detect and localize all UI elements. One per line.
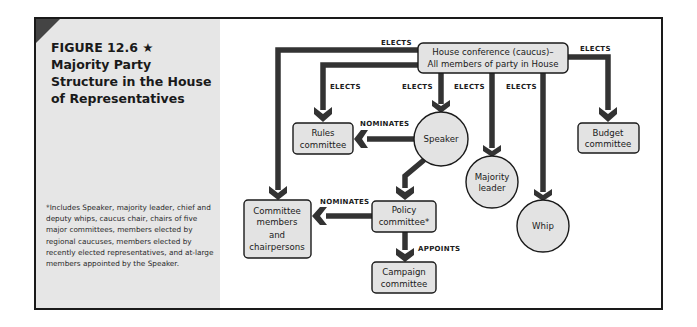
node-campaign-line: committee xyxy=(381,279,427,289)
edge-label: ELECTS xyxy=(381,39,412,47)
edge-label: ELECTS xyxy=(454,83,485,91)
node-whip-label: Whip xyxy=(532,221,554,231)
node-conference-line: House conference (caucus)– xyxy=(432,47,553,57)
arrow-down-icon xyxy=(396,186,414,200)
edge-label: ELECTS xyxy=(402,83,433,91)
arrow-left-icon xyxy=(354,130,368,148)
edge-label: ELECTS xyxy=(330,83,361,91)
node-budget-line: committee xyxy=(585,139,631,149)
node-rules-line: committee xyxy=(300,140,346,150)
node-committee-members-line: chairpersons xyxy=(249,242,305,252)
edge-conference-budget xyxy=(566,57,608,110)
edge-label: NOMINATES xyxy=(320,198,369,206)
edge-label: ELECTS xyxy=(580,45,611,53)
node-majority-leader xyxy=(466,156,518,208)
node-conference-line: All members of party in House xyxy=(428,59,559,69)
edge-label: APPOINTS xyxy=(418,245,460,253)
arrow-left-icon xyxy=(312,207,327,225)
edge-label: ELECTS xyxy=(506,83,537,91)
node-majority-leader-line: Majority xyxy=(475,172,510,182)
node-committee-members-line: members xyxy=(257,217,298,227)
node-majority-leader-line: leader xyxy=(478,183,506,193)
node-committee-members-line: Committee xyxy=(253,206,301,216)
node-committee-members-line: and xyxy=(269,230,285,240)
node-policy-line: committee* xyxy=(379,217,430,227)
edge-label: NOMINATES xyxy=(360,120,409,128)
arrow-down-icon xyxy=(396,248,414,262)
org-diagram: ELECTS ELECTS ELECTS ELECTS ELECTS ELECT… xyxy=(0,0,697,327)
node-rules-line: Rules xyxy=(311,128,335,138)
node-budget-line: Budget xyxy=(593,128,625,138)
node-campaign-line: Campaign xyxy=(382,267,426,277)
node-speaker-label: Speaker xyxy=(424,134,459,144)
node-policy-line: Policy xyxy=(392,205,417,215)
edge-speaker-policy xyxy=(405,160,424,188)
